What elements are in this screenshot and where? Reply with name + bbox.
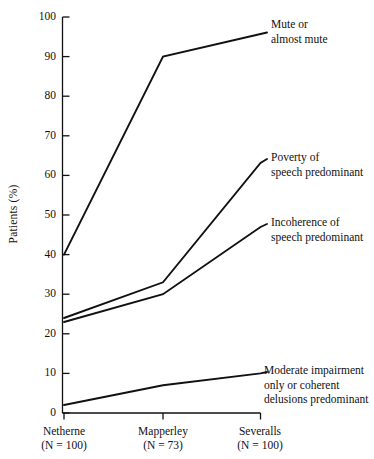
- y-tick-label-70: 70: [22, 130, 56, 142]
- series-label-poverty: Poverty of speech predominant: [271, 150, 363, 179]
- series-label-moderate: Moderate impairment only or coherent del…: [264, 363, 368, 407]
- series-line-moderate: [64, 372, 267, 405]
- y-tick-label-60: 60: [22, 169, 56, 181]
- series-label-moderate-line1: Moderate impairment: [264, 363, 368, 378]
- x-tick-n-severalls: (N = 100): [210, 438, 310, 452]
- y-tick-label-100: 100: [22, 11, 56, 23]
- axes: [63, 17, 261, 420]
- series-label-mute: Mute or almost mute: [271, 17, 328, 46]
- series-lines: [64, 33, 267, 406]
- series-line-poverty: [64, 159, 267, 318]
- chart-figure: Patients (%) 100 90 80 70 60 50 40 30 20…: [0, 0, 374, 459]
- y-tick-label-10: 10: [22, 367, 56, 379]
- series-label-incoherence: Incoherence of speech predominant: [271, 215, 363, 244]
- y-tick-label-40: 40: [22, 249, 56, 261]
- series-line-mute: [64, 33, 267, 255]
- series-label-mute-line1: Mute or: [271, 17, 328, 32]
- series-label-moderate-line2: only or coherent: [264, 378, 368, 393]
- series-label-mute-line2: almost mute: [271, 32, 328, 47]
- x-tick-label-mapperley: Mapperley (N = 73): [113, 424, 213, 452]
- y-tick-label-30: 30: [22, 288, 56, 300]
- y-tick-label-0: 0: [22, 407, 56, 419]
- series-label-poverty-line1: Poverty of: [271, 150, 363, 165]
- x-tick-name-severalls: Severalls: [239, 425, 281, 437]
- x-tick-n-mapperley: (N = 73): [113, 438, 213, 452]
- x-tick-label-netherne: Netherne (N = 100): [14, 424, 114, 452]
- series-label-moderate-line3: delusions predominant: [264, 392, 368, 407]
- y-tick-label-20: 20: [22, 328, 56, 340]
- y-tick-label-80: 80: [22, 90, 56, 102]
- y-tick-label-50: 50: [22, 209, 56, 221]
- y-tick-label-90: 90: [22, 51, 56, 63]
- series-label-incoherence-line2: speech predominant: [271, 230, 363, 245]
- x-tick-label-severalls: Severalls (N = 100): [210, 424, 310, 452]
- x-tick-name-netherne: Netherne: [43, 425, 85, 437]
- series-label-poverty-line2: speech predominant: [271, 165, 363, 180]
- series-label-incoherence-line1: Incoherence of: [271, 215, 363, 230]
- x-tick-n-netherne: (N = 100): [14, 438, 114, 452]
- x-tick-name-mapperley: Mapperley: [138, 425, 188, 437]
